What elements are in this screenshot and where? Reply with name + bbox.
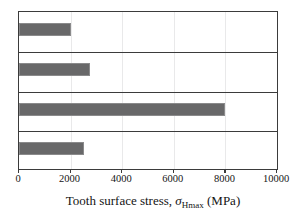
x-axis-title-unit: (MPa) bbox=[204, 193, 240, 208]
xtick-label-10000: 10000 bbox=[263, 172, 289, 185]
plot-area bbox=[18, 11, 278, 170]
xtick-label-2000: 2000 bbox=[59, 172, 80, 185]
bar-series-1 bbox=[19, 23, 71, 36]
xtick-label-4000: 4000 bbox=[111, 172, 132, 185]
x-axis-title: Tooth surface stress, σHmax (MPa) bbox=[0, 192, 306, 214]
bar-row-1 bbox=[19, 12, 277, 52]
sigma-subscript: Hmax bbox=[182, 200, 204, 210]
bar-row-2 bbox=[19, 52, 277, 92]
x-axis-title-lead: Tooth surface stress, bbox=[66, 193, 176, 208]
bar-series-3 bbox=[19, 103, 225, 116]
bar-chart-figure: 0 2000 4000 6000 8000 10000 Tooth surfac… bbox=[0, 0, 306, 215]
bar-row-3 bbox=[19, 92, 277, 132]
bar-row-4 bbox=[19, 131, 277, 171]
bar-series-2 bbox=[19, 63, 90, 76]
bar-series-4 bbox=[19, 142, 84, 155]
xtick-label-0: 0 bbox=[15, 172, 20, 185]
xtick-label-6000: 6000 bbox=[162, 172, 183, 185]
xtick-label-8000: 8000 bbox=[214, 172, 235, 185]
